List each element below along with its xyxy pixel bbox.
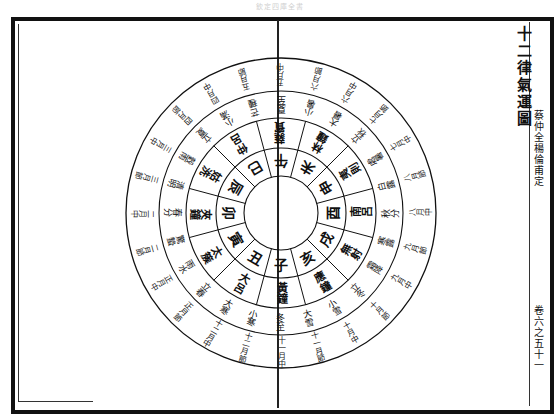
segment-dividers <box>189 121 373 305</box>
solar-term-label: 夏至 <box>275 96 288 114</box>
solar-term-label: 冬至 <box>275 313 288 331</box>
branch-label: 子 <box>274 254 288 274</box>
branch-label: 午 <box>274 152 288 172</box>
month-label: 二月中 <box>131 208 155 219</box>
pitch-label: 夾鐘 <box>190 205 212 221</box>
month-label: 五月中 <box>276 63 287 87</box>
branch-label: 酉 <box>322 206 342 220</box>
pitch-label: 南呂 <box>350 205 372 221</box>
month-label: 十一月中 <box>276 336 287 368</box>
month-label: 八月中 <box>408 208 432 219</box>
solar-term-label: 秋分 <box>381 207 399 220</box>
pitch-label: 黃鐘 <box>273 282 289 304</box>
ring-circle <box>244 176 318 250</box>
branch-label: 卯 <box>220 206 240 220</box>
solar-term-label: 春分 <box>164 207 182 220</box>
pitch-label: 蕤賓 <box>273 122 289 144</box>
